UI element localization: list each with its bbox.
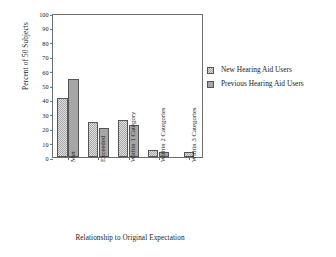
bar-0-series-0 xyxy=(57,98,68,157)
legend-label-series-1: Previous Hearing Aid Users xyxy=(221,80,304,87)
y-tick-10: 10 xyxy=(42,141,53,147)
plot-area: 0102030405060708090100 xyxy=(52,14,203,158)
y-tick-20: 20 xyxy=(42,127,53,133)
x-category-label-4: Within 3 Categories xyxy=(191,107,198,162)
y-tick-0: 0 xyxy=(45,156,53,162)
y-tick-30: 30 xyxy=(42,113,53,119)
bar-series-container xyxy=(53,15,202,157)
y-tick-label: 40 xyxy=(42,98,50,104)
y-tick-70: 70 xyxy=(42,55,53,61)
y-tick-label: 80 xyxy=(42,41,50,47)
legend-swatch-icon-series-0 xyxy=(207,67,214,74)
legend-swatch-icon-series-1 xyxy=(207,81,214,88)
bar-0-series-1 xyxy=(68,79,79,157)
y-tick-80: 80 xyxy=(42,41,53,47)
y-tick-label: 10 xyxy=(42,141,50,147)
y-tick-40: 40 xyxy=(42,98,53,104)
bar-2-series-0 xyxy=(118,120,129,157)
legend-label-series-0: New Hearing Aid Users xyxy=(221,66,292,73)
x-category-label-1: Exceeded xyxy=(100,136,107,162)
x-category-label-2: Within 1 Category xyxy=(130,111,137,162)
y-tick-label: 30 xyxy=(42,113,50,119)
legend-item-previous-hearing-aid-users: Previous Hearing Aid Users xyxy=(207,77,304,91)
bar-chart-figure: Percent of 50 Subjects 01020304050607080… xyxy=(0,0,336,257)
y-tick-label: 60 xyxy=(42,69,50,75)
bar-3-series-0 xyxy=(148,150,159,157)
y-tick-label: 90 xyxy=(42,26,50,32)
chart-legend: New Hearing Aid Users Previous Hearing A… xyxy=(207,63,304,91)
y-axis-title: Percent of 50 Subjects xyxy=(22,0,30,126)
y-tick-label: 70 xyxy=(42,55,50,61)
bar-1-series-0 xyxy=(88,122,99,157)
x-category-label-3: Within 2 Categories xyxy=(160,107,167,162)
y-tick-60: 60 xyxy=(42,69,53,75)
y-tick-label: 20 xyxy=(42,127,50,133)
y-tick-50: 50 xyxy=(42,84,53,90)
x-axis-title: Relationship to Original Expectation xyxy=(40,234,220,242)
y-tick-100: 100 xyxy=(39,12,53,18)
y-tick-mark xyxy=(50,158,53,159)
y-tick-90: 90 xyxy=(42,26,53,32)
y-tick-label: 100 xyxy=(39,12,50,18)
legend-item-new-hearing-aid-users: New Hearing Aid Users xyxy=(207,63,304,77)
x-category-label-0: Met xyxy=(70,151,77,162)
y-tick-label: 50 xyxy=(42,84,50,90)
